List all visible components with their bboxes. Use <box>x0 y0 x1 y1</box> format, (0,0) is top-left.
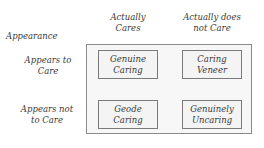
column-header-actually-cares: Actually Cares <box>98 12 158 34</box>
cell-caring-veneer: Caring Veneer <box>182 50 242 79</box>
row-header-line2: to Care <box>16 115 78 126</box>
row-header-line1: Appears to <box>18 55 78 66</box>
cell-geode-caring: Geode Caring <box>98 100 158 129</box>
column-header-not-care: Actually does not Care <box>176 12 248 34</box>
cell-line1: Genuinely <box>190 104 234 115</box>
appearance-axis-title: Appearance <box>6 31 58 42</box>
cell-line1: Geode <box>114 104 141 115</box>
cell-line2: Uncaring <box>192 115 232 126</box>
cell-genuinely-uncaring: Genuinely Uncaring <box>182 100 242 129</box>
column-header-line2: not Care <box>176 23 248 34</box>
row-header-line1: Appears not <box>16 104 78 115</box>
cell-line1: Genuine <box>110 54 146 65</box>
cell-line1: Caring <box>197 54 226 65</box>
cell-line2: Caring <box>113 65 142 76</box>
column-header-line1: Actually <box>98 12 158 23</box>
row-header-appears-to-care: Appears to Care <box>18 55 78 77</box>
column-header-line2: Cares <box>98 23 158 34</box>
column-header-line1: Actually does <box>176 12 248 23</box>
cell-genuine-caring: Genuine Caring <box>98 50 158 79</box>
cell-line2: Veneer <box>197 65 227 76</box>
row-header-appears-not-to-care: Appears not to Care <box>16 104 78 126</box>
cell-line2: Caring <box>113 115 142 126</box>
row-header-line2: Care <box>18 66 78 77</box>
